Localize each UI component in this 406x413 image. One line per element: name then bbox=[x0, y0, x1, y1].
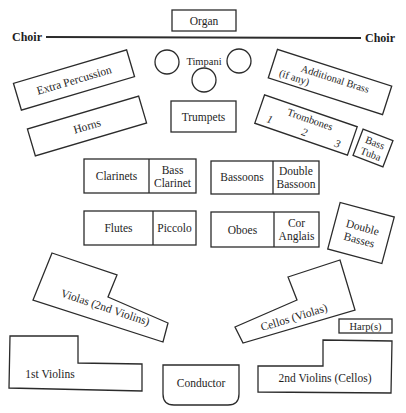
organ-section: Organ bbox=[172, 10, 236, 31]
bass-clarinet-label-line2: Clarinet bbox=[154, 177, 192, 189]
choir-right-label: Choir bbox=[365, 31, 396, 45]
cor-anglais-label-line2: Anglais bbox=[279, 230, 315, 243]
harps-label: Harp(s) bbox=[349, 321, 382, 333]
trumpets-label: Trumpets bbox=[182, 111, 226, 124]
trumpets-section: Trumpets bbox=[171, 101, 236, 132]
violas-label: Violas (2nd Violins) bbox=[59, 287, 151, 329]
double-bassoon-label-line2: Bassoon bbox=[277, 178, 316, 190]
clarinets-section: Clarinets Bass Clarinet bbox=[84, 159, 196, 193]
bass-clarinet-label-line1: Bass bbox=[162, 164, 184, 176]
additional-brass-section: Additional Brass (if any) bbox=[268, 49, 391, 114]
extra-percussion-section: Extra Percussion bbox=[13, 50, 134, 110]
extra-percussion-label: Extra Percussion bbox=[35, 63, 113, 97]
double-basses-box bbox=[328, 203, 395, 264]
choir-left-label: Choir bbox=[12, 30, 43, 44]
horns-section: Horns bbox=[27, 96, 146, 156]
timpani-drum-icon bbox=[227, 49, 251, 73]
clarinets-label: Clarinets bbox=[96, 170, 138, 182]
harps-section: Harp(s) bbox=[339, 319, 392, 333]
trombone-chair-1: 1 bbox=[265, 112, 274, 125]
bassoons-section: Bassoons Double Bassoon bbox=[211, 161, 319, 194]
organ-label: Organ bbox=[190, 15, 219, 28]
trombone-chair-3: 3 bbox=[332, 136, 343, 150]
second-violins-section: 2nd Violins (Cellos) bbox=[258, 340, 392, 393]
flutes-section: Flutes Piccolo bbox=[84, 211, 196, 245]
conductor-label: Conductor bbox=[177, 377, 226, 389]
second-violins-area bbox=[258, 340, 392, 393]
second-violins-label: 2nd Violins (Cellos) bbox=[278, 372, 371, 385]
choir-divider-line bbox=[46, 37, 361, 38]
cor-anglais-label-line1: Cor bbox=[288, 217, 305, 229]
bassoons-label: Bassoons bbox=[220, 171, 264, 183]
bass-tuba-box bbox=[353, 129, 393, 167]
conductor-section: Conductor bbox=[163, 365, 239, 405]
double-bassoon-label-line1: Double bbox=[279, 165, 313, 177]
bass-tuba-section: Bass Tuba bbox=[353, 129, 393, 167]
first-violins-area bbox=[9, 336, 142, 391]
timpani-section: Timpani bbox=[155, 49, 251, 92]
timpani-label: Timpani bbox=[186, 56, 221, 67]
double-basses-section: Double Basses bbox=[328, 203, 395, 264]
violas-section: Violas (2nd Violins) bbox=[33, 253, 168, 342]
cellos-label: Cellos (Violas) bbox=[259, 301, 329, 334]
trombone-chair-2: 2 bbox=[300, 125, 310, 138]
flutes-label: Flutes bbox=[104, 222, 133, 234]
violas-area bbox=[33, 253, 168, 342]
oboes-section: Oboes Cor Anglais bbox=[211, 212, 319, 247]
choir-row: Choir Choir bbox=[12, 30, 396, 45]
horns-label: Horns bbox=[72, 116, 103, 136]
timpani-drum-icon bbox=[192, 68, 216, 92]
piccolo-label: Piccolo bbox=[157, 222, 192, 234]
cellos-area bbox=[235, 260, 355, 343]
oboes-label: Oboes bbox=[228, 224, 258, 236]
orchestra-seating-diagram: Choir Choir Organ Timpani Extra Percussi… bbox=[0, 0, 406, 413]
cellos-section: Cellos (Violas) bbox=[235, 260, 355, 343]
first-violins-label: 1st Violins bbox=[25, 368, 75, 380]
trombones-section: Trombones 1 2 3 bbox=[255, 95, 357, 155]
first-violins-section: 1st Violins bbox=[9, 336, 142, 391]
timpani-drum-icon bbox=[155, 50, 179, 74]
